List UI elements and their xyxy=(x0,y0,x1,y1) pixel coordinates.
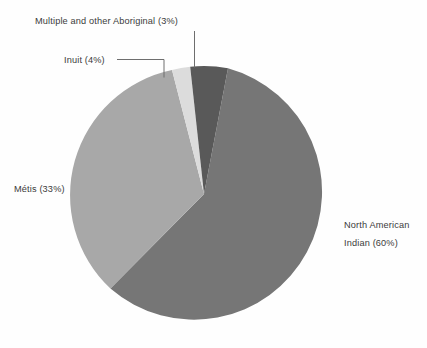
figure-caption-partial xyxy=(8,341,308,348)
pie-label-north-american-indian: North American Indian (60%) xyxy=(344,217,409,253)
pie-chart-figure: Multiple and other Aboriginal (3%) Inuit… xyxy=(0,0,427,348)
pie-label-multiple-and-other-aboriginal: Multiple and other Aboriginal (3%) xyxy=(35,15,178,27)
pie-label-inuit: Inuit (4%) xyxy=(64,54,105,66)
pie-label-north-american-indian-line1: North American xyxy=(344,217,409,235)
pie-label-north-american-indian-line2: Indian (60%) xyxy=(344,235,409,253)
pie-label-metis: Métis (33%) xyxy=(14,183,65,195)
pie-chart-canvas xyxy=(0,0,427,348)
